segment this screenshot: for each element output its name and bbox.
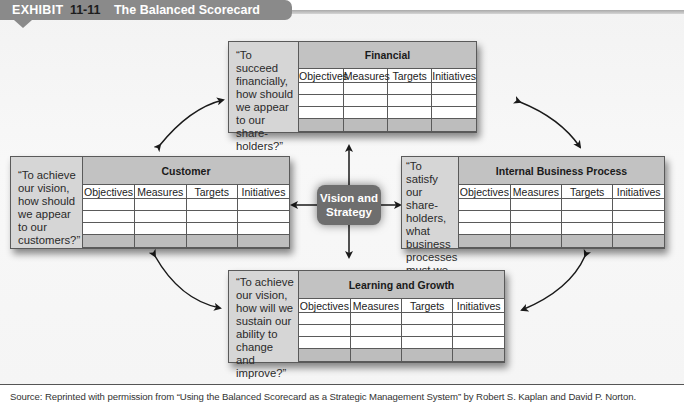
- perspective-learning-and-growth: “To achieve our vision, how will we sust…: [228, 270, 505, 363]
- financial-quote: “To succeed financially, how should we a…: [229, 42, 299, 132]
- perspective-internal-business-process: “To satisfy our share-holders, what busi…: [401, 156, 665, 249]
- col-initiatives: Initiatives: [613, 185, 664, 199]
- internal-table: ObjectivesMeasuresTargetsInitiatives: [459, 184, 664, 248]
- col-objectives: Objectives: [299, 299, 350, 313]
- col-measures: Measures: [135, 185, 187, 199]
- learning-title: Learning and Growth: [299, 271, 504, 298]
- financial-title: Financial: [299, 42, 476, 68]
- learning-quote: “To achieve our vision, how will we sust…: [229, 271, 299, 362]
- vision-line2: Strategy: [320, 205, 378, 219]
- customer-table: ObjectivesMeasuresTargetsInitiatives: [83, 184, 289, 248]
- vision-and-strategy-box: Vision and Strategy: [317, 185, 381, 225]
- col-targets: Targets: [562, 185, 613, 199]
- col-initiatives: Initiatives: [238, 185, 290, 199]
- customer-title: Customer: [83, 157, 289, 184]
- vision-line1: Vision and: [320, 191, 378, 205]
- col-measures: Measures: [350, 299, 401, 313]
- col-objectives: Objectives: [299, 69, 343, 83]
- col-objectives: Objectives: [83, 185, 135, 199]
- financial-table: ObjectivesMeasuresTargetsInitiatives: [299, 68, 476, 132]
- col-objectives: Objectives: [459, 185, 510, 199]
- col-initiatives: Initiatives: [453, 299, 504, 313]
- perspective-customer: “To achieve our vision, how should we ap…: [10, 156, 290, 249]
- col-measures: Measures: [510, 185, 561, 199]
- customer-quote: “To achieve our vision, how should we ap…: [11, 157, 83, 248]
- learning-table: ObjectivesMeasuresTargetsInitiatives: [299, 298, 504, 362]
- col-targets: Targets: [186, 185, 238, 199]
- source-caption: Source: Reprinted with permission from “…: [10, 391, 636, 402]
- internal-title: Internal Business Process: [459, 157, 664, 184]
- col-targets: Targets: [388, 69, 432, 83]
- bottom-rule: [0, 384, 684, 385]
- perspective-financial: “To succeed financially, how should we a…: [228, 41, 477, 133]
- internal-quote: “To satisfy our share-holders, what busi…: [402, 157, 459, 248]
- col-initiatives: Initiatives: [432, 69, 476, 83]
- col-measures: Measures: [343, 69, 387, 83]
- col-targets: Targets: [402, 299, 453, 313]
